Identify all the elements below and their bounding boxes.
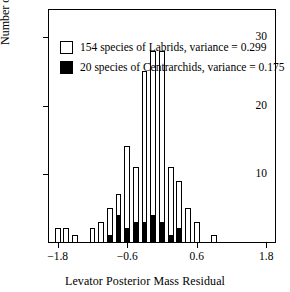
histogram-bar	[168, 167, 174, 242]
x-axis-title: Levator Posterior Mass Residual	[0, 274, 290, 289]
histogram-bar	[107, 208, 113, 242]
x-axis-tick-label: 1.8	[259, 251, 273, 263]
histogram-bar	[176, 181, 182, 242]
histogram-bar	[90, 228, 96, 242]
y-axis-title: Number of Species	[0, 0, 13, 64]
x-axis-tick-label: 0.6	[190, 251, 204, 263]
x-axis-tick-label: −1.8	[47, 251, 68, 263]
histogram-bar-centrarchid-portion	[176, 228, 182, 242]
histogram-bar	[185, 208, 191, 242]
histogram-figure: 102030 −1.8−0.60.61.8 154 species of Lab…	[0, 0, 290, 292]
legend-item-labrids: 154 species of Labrids, variance = 0.299	[60, 41, 284, 54]
histogram-bar-centrarchid-portion	[142, 222, 148, 242]
plot-area: 102030 −1.8−0.60.61.8 154 species of Lab…	[48, 9, 276, 243]
histogram-bar	[133, 167, 139, 242]
histogram-bar	[98, 222, 104, 242]
histogram-bar	[124, 146, 130, 242]
x-axis-tick	[58, 242, 59, 248]
histogram-bar-centrarchid-portion	[124, 228, 130, 242]
histogram-bar	[116, 194, 122, 242]
histogram-bar	[211, 235, 217, 242]
histogram-bar	[72, 235, 78, 242]
legend: 154 species of Labrids, variance = 0.299…	[60, 41, 284, 81]
legend-swatch-open-icon	[60, 41, 73, 54]
histogram-bar-centrarchid-portion	[168, 235, 174, 242]
histogram-bar	[194, 222, 200, 242]
legend-swatch-filled-icon	[60, 61, 73, 74]
legend-item-centrarchids: 20 species of Centrarchids, variance = 0…	[60, 61, 284, 74]
histogram-bar-centrarchid-portion	[150, 215, 156, 242]
legend-label-centrarchids: 20 species of Centrarchids, variance = 0…	[80, 62, 284, 74]
y-axis-tick-label: 10	[256, 168, 268, 180]
histogram-bar	[142, 71, 148, 242]
y-axis-tick	[43, 106, 49, 107]
histogram-bar	[63, 228, 69, 242]
histogram-bar-centrarchid-portion	[116, 215, 122, 242]
y-axis-tick	[43, 37, 49, 38]
legend-label-labrids: 154 species of Labrids, variance = 0.299	[80, 42, 267, 54]
x-axis-tick	[266, 242, 267, 248]
histogram-bar-centrarchid-portion	[133, 222, 139, 242]
y-axis-tick-label: 20	[256, 100, 268, 112]
x-axis-tick	[197, 242, 198, 248]
y-axis-tick	[43, 174, 49, 175]
x-axis-tick-label: −0.6	[117, 251, 138, 263]
histogram-bar	[55, 228, 61, 242]
histogram-bar-centrarchid-portion	[159, 222, 165, 242]
x-axis-tick	[127, 242, 128, 248]
histogram-bar-centrarchid-portion	[107, 235, 113, 242]
